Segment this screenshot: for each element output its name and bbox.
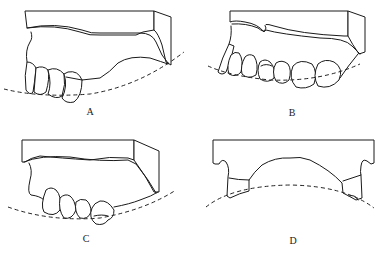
panel-a-label: A (86, 106, 93, 117)
panel-c-label: C (83, 233, 90, 244)
panel-d-label: D (289, 235, 296, 246)
diagram-drawing (0, 0, 379, 254)
panel-b-drawing (208, 11, 365, 88)
panel-b-label: B (289, 107, 296, 118)
panel-c-drawing (8, 140, 176, 225)
dental-diagram-figure: A B C D (0, 0, 379, 254)
panel-a-drawing (4, 11, 184, 103)
panel-d-drawing (206, 140, 374, 208)
